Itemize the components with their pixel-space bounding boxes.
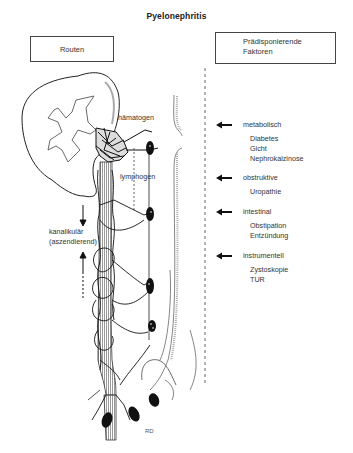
arrow-left-icon <box>216 173 232 183</box>
artist-signature: RD <box>145 426 154 436</box>
canalicular-arrows <box>80 205 86 298</box>
route-label-canalicular: kanalikulär (aszendierend) <box>49 227 97 247</box>
arrow-left-icon <box>216 120 232 130</box>
arrow-left-icon <box>216 251 232 261</box>
route-label-hematogenous: hämatogen <box>118 113 154 123</box>
route-label-lymphogenous: lymphogen <box>120 172 155 182</box>
arrow-left-icon <box>216 207 232 217</box>
